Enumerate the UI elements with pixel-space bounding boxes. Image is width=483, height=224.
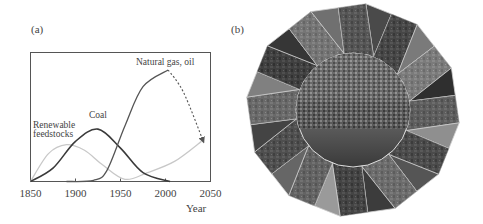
- x-tick-label: 1950: [110, 187, 133, 199]
- energy-transition-chart: 18501900195020002050 Year Renewable feed…: [0, 0, 240, 224]
- x-tick-label: 1900: [65, 187, 88, 199]
- x-axis-label: Year: [186, 202, 207, 214]
- photo-collage: [240, 0, 483, 224]
- x-axis-tick-labels: 18501900195020002050: [20, 187, 223, 199]
- coal-label: Coal: [89, 110, 107, 120]
- natural-gas-oil-curve: [67, 70, 169, 182]
- collage-center-photo: [296, 53, 410, 167]
- x-tick-label: 2050: [200, 187, 223, 199]
- renewable-label-line2: feedstocks: [33, 129, 73, 139]
- natural-gas-oil-label: Natural gas, oil: [136, 57, 195, 67]
- x-tick-label: 2000: [155, 187, 178, 199]
- x-tick-label: 1850: [20, 187, 43, 199]
- natural-gas-oil-projection-curve: [168, 70, 203, 141]
